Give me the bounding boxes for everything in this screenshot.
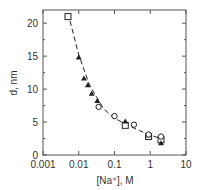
data-markers	[65, 14, 164, 146]
y-tick-label: 10	[27, 84, 39, 95]
x-tick-label: 10	[180, 159, 192, 170]
x-tick-label: 0.01	[69, 159, 89, 170]
x-tick-label: 1	[147, 159, 153, 170]
y-tick-label: 5	[32, 117, 38, 128]
fit-curve	[68, 13, 161, 138]
x-axis-label: [Na⁺], M	[96, 175, 133, 186]
chart: 0.0010.010.111005101520 [Na⁺], M d, nm	[0, 0, 200, 190]
axis-ticks: 0.0010.010.111005101520	[27, 10, 192, 170]
x-tick-label: 0.1	[108, 159, 122, 170]
y-tick-label: 0	[32, 150, 38, 161]
y-axis-label: d, nm	[8, 70, 19, 95]
y-tick-label: 15	[27, 51, 39, 62]
y-tick-label: 20	[27, 18, 39, 29]
plot-frame	[43, 10, 186, 155]
